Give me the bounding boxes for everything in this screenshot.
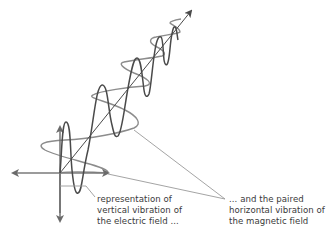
- em-wave-diagram: representation of vertical vibration of …: [0, 0, 329, 239]
- electric-label-line-1: representation of: [97, 194, 182, 205]
- magnetic-leader-line-upper: [134, 130, 225, 199]
- magnetic-field-label: ... and the paired horizontal vibration …: [229, 194, 325, 227]
- electric-label-line-2: vertical vibration of: [97, 205, 182, 216]
- electric-label-line-3: the electric field ...: [97, 216, 182, 227]
- magnetic-label-line-1: ... and the paired: [229, 194, 325, 205]
- axes: [13, 11, 191, 221]
- electric-leader-line: [60, 186, 95, 197]
- magnetic-label-line-3: the magnetic field: [229, 216, 325, 227]
- magnetic-label-line-2: horizontal vibration of: [229, 205, 325, 216]
- vertical-sine-wave: [60, 27, 178, 193]
- electric-field-label: representation of vertical vibration of …: [97, 194, 182, 227]
